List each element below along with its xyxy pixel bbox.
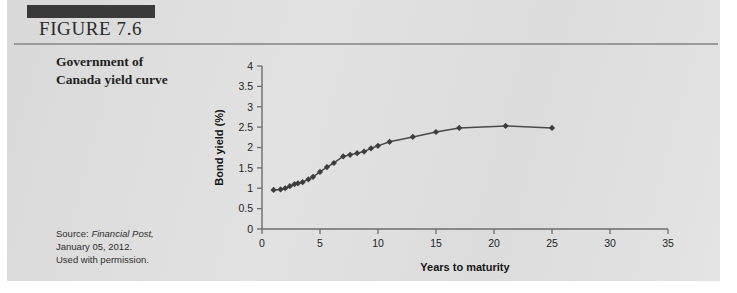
chart-svg: 00.511.522.533.5405101520253035Bond yiel… <box>210 48 710 276</box>
x-tick-label: 30 <box>604 237 616 249</box>
y-tick-label: 2 <box>247 141 253 153</box>
y-tick-label: 2.5 <box>238 121 253 133</box>
x-tick-label: 35 <box>662 237 674 249</box>
data-point-marker <box>368 145 374 151</box>
caption-line-1: Government of <box>56 54 143 69</box>
y-tick-label: 4 <box>247 60 253 72</box>
y-tick-label: 3.5 <box>238 80 253 92</box>
x-tick-label: 5 <box>317 237 323 249</box>
data-point-marker <box>361 148 367 154</box>
y-axis-title: Bond yield (%) <box>213 109 225 186</box>
y-tick-label: 3 <box>247 101 253 113</box>
x-tick-label: 20 <box>488 237 500 249</box>
data-point-marker <box>410 134 416 140</box>
source-publication: Financial Post, <box>91 228 153 239</box>
y-tick-label: 1 <box>247 182 253 194</box>
data-point-marker <box>277 186 283 192</box>
x-tick-label: 15 <box>430 237 442 249</box>
source-date: January 05, 2012. <box>56 241 132 252</box>
data-point-marker <box>354 150 360 156</box>
data-point-marker <box>375 143 381 149</box>
figure-container: FIGURE 7.6 Government of Canada yield cu… <box>0 0 737 293</box>
x-tick-label: 10 <box>372 237 384 249</box>
header-swatch-bar <box>27 5 155 18</box>
y-tick-label: 0 <box>247 223 253 235</box>
data-point-marker <box>347 152 353 158</box>
source-note: Source: Financial Post, January 05, 2012… <box>56 227 236 266</box>
data-point-marker <box>503 123 509 129</box>
data-point-marker <box>387 139 393 145</box>
x-tick-label: 25 <box>546 237 558 249</box>
data-point-marker <box>300 179 306 185</box>
data-point-marker <box>549 125 555 131</box>
data-point-marker <box>433 129 439 135</box>
y-tick-label: 0.5 <box>238 202 253 214</box>
x-tick-label: 0 <box>259 237 265 249</box>
caption-line-2: Canada yield curve <box>56 72 168 87</box>
x-axis-title: Years to maturity <box>420 261 510 273</box>
figure-label: FIGURE 7.6 <box>39 18 142 40</box>
data-point-marker <box>456 125 462 131</box>
horizontal-divider <box>14 43 718 45</box>
figure-caption: Government of Canada yield curve <box>56 53 226 89</box>
y-tick-label: 1.5 <box>238 162 253 174</box>
source-prefix: Source: <box>56 228 89 239</box>
source-permission: Used with permission. <box>56 254 149 265</box>
data-point-marker <box>271 187 277 193</box>
yield-curve-chart: 00.511.522.533.5405101520253035Bond yiel… <box>210 48 710 276</box>
